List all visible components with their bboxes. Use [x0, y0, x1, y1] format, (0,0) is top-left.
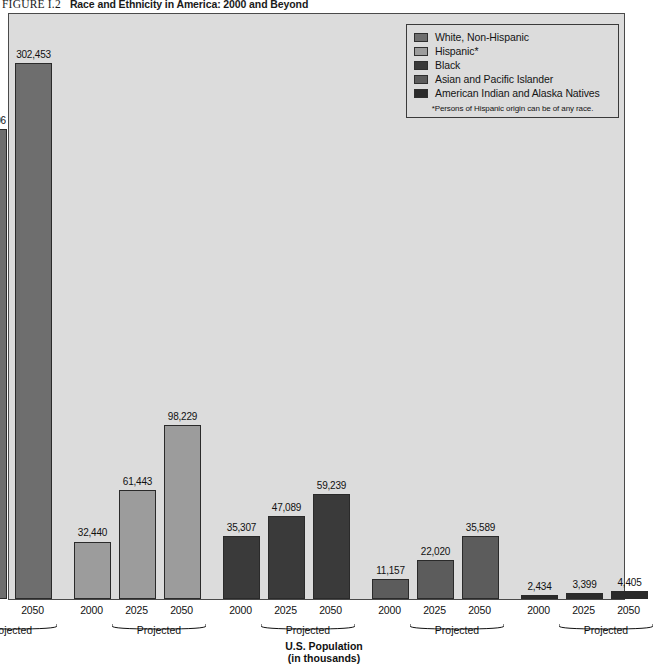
bar-value-label: 265,306	[0, 115, 16, 126]
projected-label: Projected	[261, 624, 355, 636]
chart-legend: White, Non-HispanicHispanic*BlackAsian a…	[406, 24, 619, 118]
axis-title-line2: (in thousands)	[8, 653, 640, 665]
bar-value-label: 47,089	[259, 502, 314, 513]
x-tick-label: 2050	[6, 604, 59, 616]
bar	[566, 593, 603, 599]
bar-value-label: 4,405	[602, 577, 657, 588]
figure-number: FIGURE I.2	[2, 0, 61, 10]
bar	[611, 591, 648, 599]
legend-swatch-icon	[414, 47, 428, 56]
projected-brace	[261, 617, 355, 624]
projected-brace	[410, 617, 504, 624]
projected-label: Projected	[410, 624, 504, 636]
legend-swatch-icon	[414, 75, 428, 84]
projected-label: Projected	[559, 624, 653, 636]
bar-value-label: 61,443	[110, 476, 165, 487]
legend-swatch-icon	[414, 33, 428, 42]
projected-brace	[0, 617, 57, 624]
x-tick-label: 2050	[453, 604, 506, 616]
bar-value-label: 32,440	[65, 527, 120, 538]
bar-value-label: 59,239	[304, 480, 359, 491]
bar	[417, 560, 454, 599]
bar	[372, 579, 409, 599]
bar	[15, 63, 52, 599]
bar	[119, 490, 156, 599]
legend-item-label: American Indian and Alaska Natives	[435, 87, 600, 99]
legend-footnote: *Persons of Hispanic origin can be of an…	[414, 104, 611, 113]
legend-item: American Indian and Alaska Natives	[414, 86, 611, 100]
legend-item: White, Non-Hispanic	[414, 30, 611, 44]
legend-item-label: White, Non-Hispanic	[435, 31, 529, 43]
bar	[74, 542, 111, 600]
figure-caption: FIGURE I.2 Race and Ethnicity in America…	[2, 0, 308, 11]
legend-item: Asian and Pacific Islander	[414, 72, 611, 86]
legend-swatch-icon	[414, 89, 428, 98]
bar-value-label: 22,020	[408, 546, 463, 557]
axis-title: U.S. Population (in thousands)	[8, 641, 640, 664]
x-tick-label: 2050	[304, 604, 357, 616]
x-tick-label: 2050	[155, 604, 208, 616]
legend-item-label: Black	[435, 59, 460, 71]
bar-value-label: 11,157	[363, 565, 418, 576]
projected-label: Projected	[0, 624, 57, 636]
axis-title-line1: U.S. Population	[8, 641, 640, 653]
legend-swatch-icon	[414, 61, 428, 70]
legend-items: White, Non-HispanicHispanic*BlackAsian a…	[414, 30, 611, 100]
bar-value-label: 35,589	[453, 522, 508, 533]
x-axis: U.S. Population (in thousands) 200020252…	[8, 601, 625, 665]
legend-item-label: Hispanic*	[435, 45, 478, 57]
figure-title: Race and Ethnicity in America: 2000 and …	[70, 0, 308, 10]
bar	[223, 536, 260, 599]
legend-item-label: Asian and Pacific Islander	[435, 73, 553, 85]
bar	[313, 494, 350, 599]
bar	[0, 129, 7, 599]
bar	[268, 516, 305, 599]
x-tick-label: 2050	[602, 604, 655, 616]
legend-item: Hispanic*	[414, 44, 611, 58]
projected-label: Projected	[112, 624, 206, 636]
bar	[164, 425, 201, 599]
bar	[521, 595, 558, 599]
projected-brace	[559, 617, 653, 624]
bar-value-label: 302,453	[6, 49, 61, 60]
projected-brace	[112, 617, 206, 624]
bar-value-label: 98,229	[155, 411, 210, 422]
bar	[462, 536, 499, 599]
bar-value-label: 35,307	[214, 522, 269, 533]
legend-item: Black	[414, 58, 611, 72]
